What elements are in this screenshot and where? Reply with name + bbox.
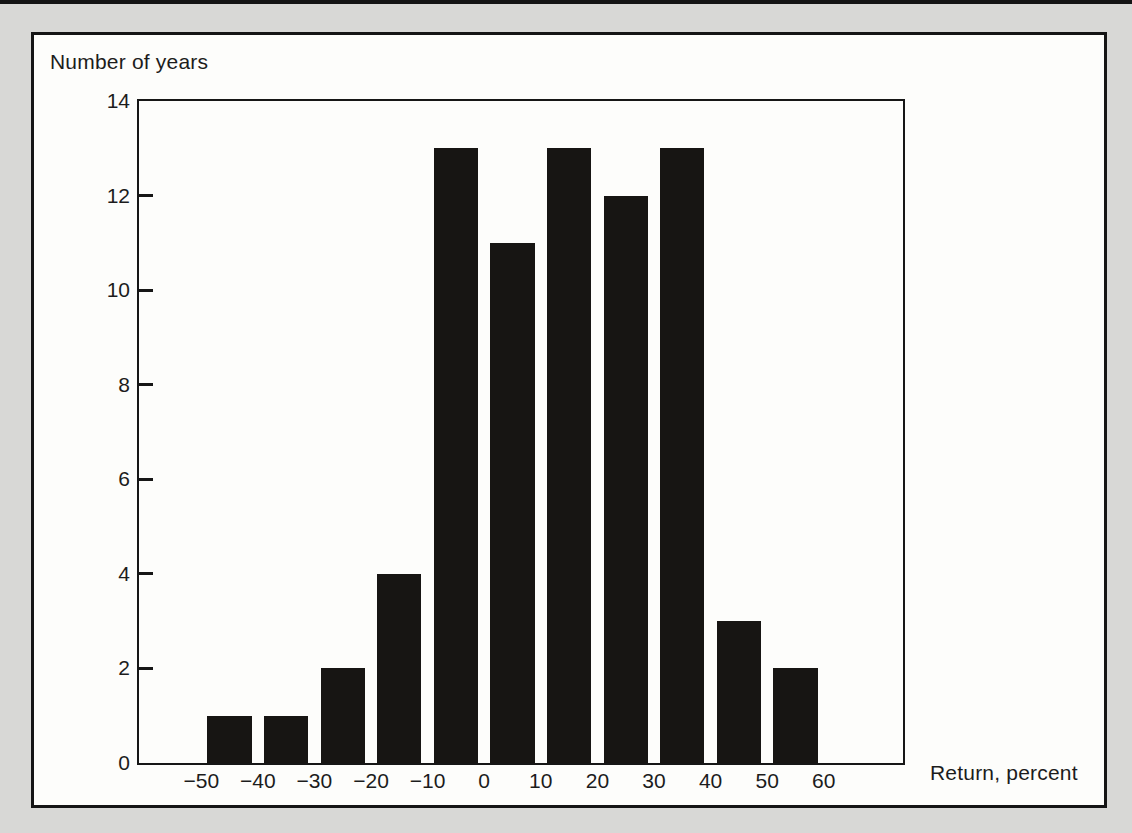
histogram-bar	[660, 148, 704, 763]
x-tick-label: −40	[226, 768, 290, 794]
histogram-bar	[547, 148, 591, 763]
x-tick-label: 0	[452, 768, 516, 794]
histogram-bar	[321, 668, 365, 763]
y-tick-label: 10	[72, 277, 130, 303]
y-tick-label: 14	[72, 88, 130, 114]
y-tick-mark	[139, 383, 153, 386]
histogram-bar	[377, 574, 421, 763]
x-axis-title: Return, percent	[930, 761, 1078, 785]
y-tick-mark	[139, 289, 153, 292]
y-tick-label: 6	[72, 466, 130, 492]
x-tick-label: 50	[735, 768, 799, 794]
y-tick-label: 0	[72, 750, 130, 776]
y-tick-mark	[139, 667, 153, 670]
histogram-bar	[717, 621, 761, 763]
figure-frame: Number of years 02468101214−50−40−30−20−…	[31, 32, 1107, 808]
x-tick-label: −10	[396, 768, 460, 794]
scan-edge-strip	[0, 0, 1132, 4]
y-tick-label: 2	[72, 655, 130, 681]
x-tick-label: −30	[282, 768, 346, 794]
histogram-bar	[773, 668, 817, 763]
x-tick-label: −50	[169, 768, 233, 794]
x-tick-label: −20	[339, 768, 403, 794]
y-tick-mark	[139, 194, 153, 197]
x-tick-label: 10	[509, 768, 573, 794]
y-tick-label: 8	[72, 372, 130, 398]
histogram-bar	[434, 148, 478, 763]
x-tick-label: 30	[622, 768, 686, 794]
x-tick-label: 20	[565, 768, 629, 794]
y-tick-label: 12	[72, 183, 130, 209]
histogram-bar	[490, 243, 534, 763]
histogram-bar	[207, 716, 251, 763]
y-axis-title: Number of years	[50, 50, 208, 74]
y-tick-mark	[139, 572, 153, 575]
histogram-bar	[604, 196, 648, 763]
y-tick-mark	[139, 478, 153, 481]
x-tick-label: 40	[679, 768, 743, 794]
y-tick-label: 4	[72, 561, 130, 587]
plot-area: 02468101214−50−40−30−20−100102030405060	[137, 99, 905, 765]
x-tick-label: 60	[792, 768, 856, 794]
histogram-bar	[264, 716, 308, 763]
